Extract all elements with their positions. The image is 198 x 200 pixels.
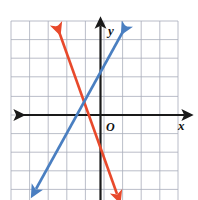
y-axis-label: y	[106, 23, 114, 38]
x-axis-label: x	[177, 118, 185, 133]
coordinate-plane-figure: y x O	[0, 0, 198, 200]
origin-label: O	[106, 120, 115, 134]
graph-canvas: y x O	[0, 0, 198, 200]
